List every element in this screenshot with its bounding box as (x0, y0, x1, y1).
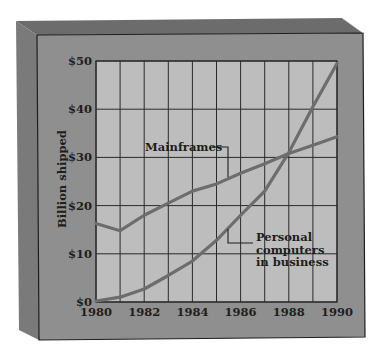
y-axis-label: Billion shipped (55, 130, 69, 228)
x-tick-label: 1980 (80, 305, 112, 319)
x-tick-label: 1986 (225, 305, 257, 319)
y-tick-label: $10 (68, 247, 92, 261)
x-tick-label: 1982 (128, 305, 160, 319)
y-tick-label: $40 (68, 102, 92, 116)
box-top-face (16, 18, 363, 35)
box-left-face (16, 21, 39, 340)
pc-label-line-1: Personal (256, 230, 313, 244)
x-tick-label: 1984 (176, 305, 208, 319)
x-tick-label: 1988 (273, 305, 305, 319)
mainframes-label: Mainframes (145, 140, 222, 154)
x-tick-label: 1990 (321, 305, 353, 319)
chart-canvas: $0$10$20$30$40$50 1980198219841986198819… (0, 0, 380, 356)
y-tick-label: $20 (68, 199, 92, 213)
y-tick-label: $50 (68, 54, 92, 68)
chart: $0$10$20$30$40$50 1980198219841986198819… (0, 0, 380, 356)
y-tick-label: $30 (68, 150, 92, 164)
pc-label-line-3: in business (256, 255, 329, 269)
